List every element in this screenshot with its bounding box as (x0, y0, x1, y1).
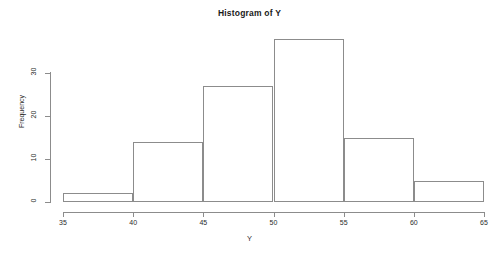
y-axis-tick (45, 116, 50, 117)
x-axis-tick-label: 35 (51, 219, 75, 226)
page-title: Histogram of Y (0, 8, 499, 18)
y-axis-line (50, 72, 51, 203)
x-axis-label: Y (0, 234, 499, 243)
histogram-bar (63, 193, 133, 202)
y-axis-tick-label: 10 (30, 150, 37, 166)
x-axis-tick-label: 55 (332, 219, 356, 226)
plot-area (63, 30, 484, 202)
x-axis-tick-label: 40 (121, 219, 145, 226)
y-axis-label: Frequency (18, 82, 25, 142)
x-axis-tick-label: 60 (402, 219, 426, 226)
x-axis-tick (484, 212, 485, 217)
y-axis-tick (45, 202, 50, 203)
x-axis-tick-label: 50 (262, 219, 286, 226)
histogram-bar (203, 86, 273, 202)
y-axis-tick (45, 73, 50, 74)
x-axis-tick (344, 212, 345, 217)
y-axis-tick-label: 0 (30, 193, 37, 209)
histogram-plot: Histogram of Y Frequency 0102030 3540455… (0, 0, 499, 255)
x-axis-tick (274, 212, 275, 217)
histogram-bar (344, 138, 414, 203)
x-axis-tick (203, 212, 204, 217)
x-axis-tick (414, 212, 415, 217)
y-axis-tick (45, 159, 50, 160)
x-axis-tick-label: 45 (191, 219, 215, 226)
histogram-bar (274, 39, 344, 202)
x-axis-tick (63, 212, 64, 217)
y-axis-tick-label: 30 (30, 64, 37, 80)
histogram-bar (133, 142, 203, 202)
histogram-bar (414, 181, 484, 203)
x-axis-tick (133, 212, 134, 217)
y-axis-tick-label: 20 (30, 107, 37, 123)
x-axis-tick-label: 65 (472, 219, 496, 226)
